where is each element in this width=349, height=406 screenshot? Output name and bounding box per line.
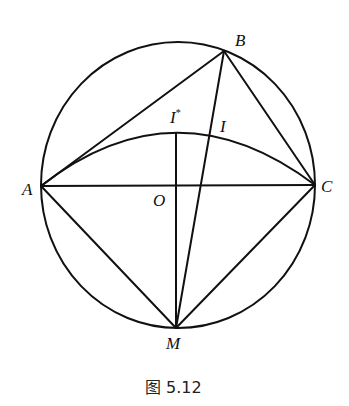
label-i-star: I* [170, 108, 181, 126]
figure-caption: 图 5.12 [145, 380, 202, 396]
label-i: I [220, 118, 226, 135]
label-o: O [153, 192, 165, 209]
label-c: C [321, 178, 332, 195]
segment-bc [224, 51, 315, 185]
segment-ab [41, 51, 224, 186]
arc-a-istar-c [41, 133, 315, 186]
label-a: A [22, 181, 32, 198]
label-b: B [235, 32, 245, 49]
label-m: M [166, 335, 180, 352]
segment-ac [41, 185, 315, 186]
